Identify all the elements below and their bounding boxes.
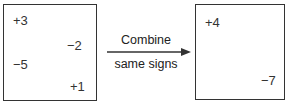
- term-minus-7: −7: [261, 73, 276, 88]
- arrow-label-top: Combine: [106, 33, 186, 47]
- term-plus-1: +1: [70, 79, 85, 94]
- term-plus-4: +4: [205, 15, 220, 30]
- right-box: +4 −7: [195, 4, 285, 100]
- arrow-label-bottom: same signs: [106, 57, 186, 71]
- left-box: +3 −2 −5 +1: [3, 4, 97, 101]
- term-minus-2: −2: [67, 38, 82, 53]
- arrow-right-icon: [105, 47, 195, 57]
- term-minus-5: −5: [13, 57, 28, 72]
- term-plus-3: +3: [13, 13, 28, 28]
